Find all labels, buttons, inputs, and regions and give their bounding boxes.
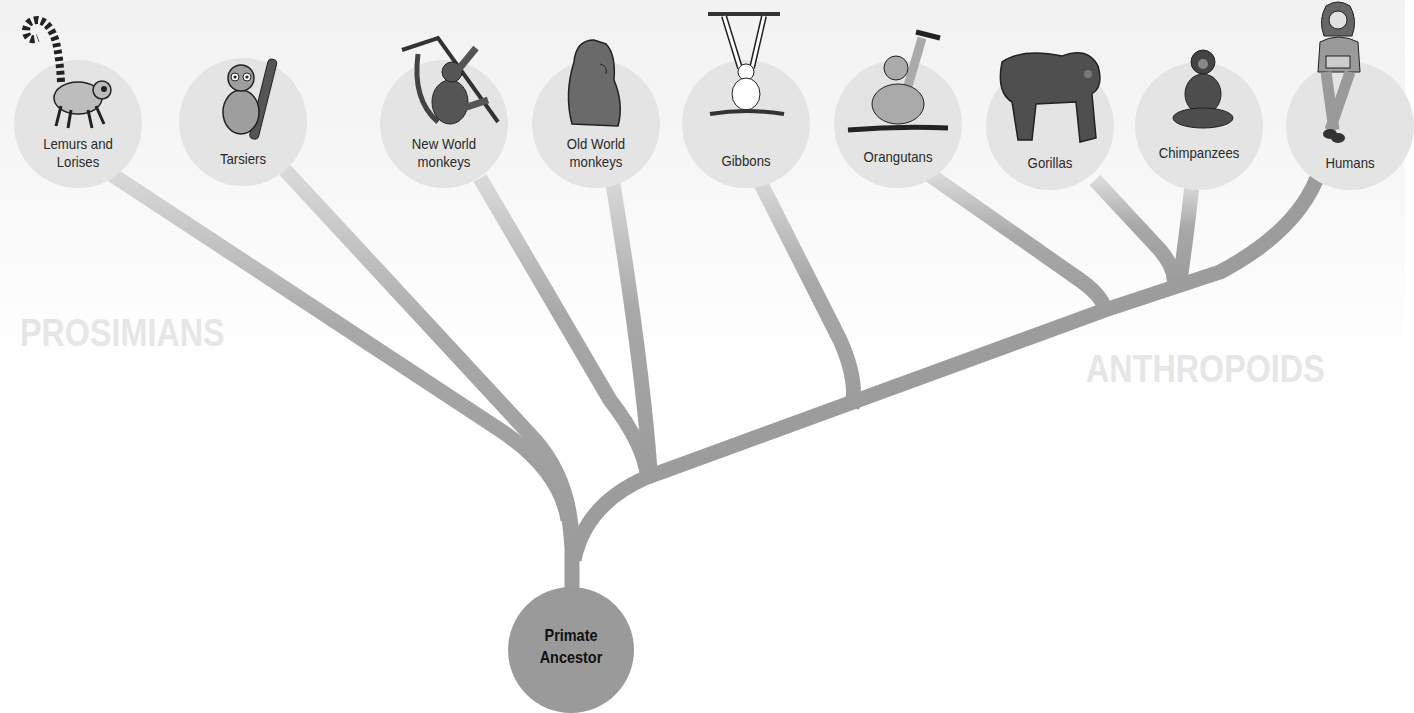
- taxon-label-line1: Chimpanzees: [1143, 144, 1256, 161]
- branch-tarsiers: [285, 170, 572, 540]
- branch-gorillas: [1095, 180, 1174, 282]
- taxon-label-line1: Orangutans: [842, 148, 955, 165]
- taxon-node-humans: Humans: [1286, 62, 1414, 190]
- group-label-prosimians: PROSIMIANS: [20, 312, 225, 355]
- taxon-label-line1: Tarsiers: [187, 150, 300, 167]
- branch-anthropoid-stem: [574, 478, 645, 560]
- taxon-node-gorillas: Gorillas: [986, 62, 1114, 190]
- branch-gibbons: [758, 178, 854, 408]
- root-label-line1: Primate: [517, 625, 624, 647]
- branch-chimpanzees: [1180, 185, 1192, 280]
- branch-orangutans: [930, 175, 1105, 312]
- lemur-icon: [16, 2, 126, 142]
- new-world-monkey-icon: [398, 30, 508, 130]
- taxon-node-gibbons: Gibbons: [682, 60, 810, 188]
- taxon-label-line1: New World: [388, 135, 501, 152]
- root-node-primate-ancestor: Primate Ancestor: [508, 587, 634, 713]
- old-world-monkey-icon: [560, 34, 630, 132]
- taxon-node-orangutans: Orangutans: [834, 60, 962, 188]
- taxon-node-new-world-monkeys: New World monkeys: [380, 60, 508, 188]
- taxon-node-chimpanzees: Chimpanzees: [1135, 62, 1263, 190]
- taxon-label-line1: Gibbons: [690, 152, 803, 169]
- gibbon-icon: [704, 4, 788, 124]
- gorilla-icon: [992, 42, 1110, 150]
- tarsier-icon: [207, 56, 287, 146]
- taxon-label-line1: Humans: [1294, 154, 1407, 171]
- taxon-node-old-world-monkeys: Old World monkeys: [532, 60, 660, 188]
- group-label-anthropoids: ANTHROPOIDS: [1086, 348, 1325, 391]
- taxon-label-line1: Gorillas: [994, 154, 1107, 171]
- root-label-line2: Ancestor: [517, 647, 624, 669]
- taxon-node-tarsiers: Tarsiers: [179, 58, 307, 186]
- taxon-label-line2: Lorises: [22, 153, 135, 170]
- chimpanzee-icon: [1169, 46, 1239, 134]
- taxon-label-line1: Old World: [540, 135, 653, 152]
- human-icon: [1304, 0, 1374, 150]
- taxon-label-line1: Lemurs and: [22, 135, 135, 152]
- orangutan-icon: [844, 26, 954, 136]
- taxon-label-line2: monkeys: [540, 153, 653, 170]
- taxon-label-line2: monkeys: [388, 153, 501, 170]
- taxon-node-lemurs: Lemurs and Lorises: [14, 60, 142, 188]
- root-label: Primate Ancestor: [517, 625, 624, 669]
